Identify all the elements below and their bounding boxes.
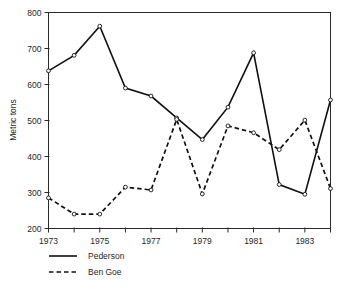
data-point: [72, 53, 76, 57]
data-point: [226, 105, 230, 109]
data-point: [175, 118, 179, 122]
data-point: [303, 118, 307, 122]
y-tick-label: 700: [27, 44, 41, 54]
data-point: [200, 192, 204, 196]
x-tick-label: 1983: [295, 236, 314, 246]
series-line: [49, 26, 331, 194]
data-point: [329, 98, 333, 102]
y-tick-label: 400: [27, 152, 41, 162]
series-ben-goe: [47, 118, 333, 216]
x-tick-label: 1979: [193, 236, 212, 246]
data-point: [200, 138, 204, 142]
data-point: [72, 212, 76, 216]
data-point: [47, 196, 51, 200]
data-point: [329, 187, 333, 191]
y-tick-label: 500: [27, 116, 41, 126]
y-axis: 200300400500600700800: [27, 8, 49, 234]
y-tick-label: 200: [27, 224, 41, 234]
data-point: [226, 124, 230, 128]
series-line: [49, 119, 331, 214]
legend-label: Pederson: [88, 251, 125, 261]
data-point: [124, 185, 128, 189]
data-point: [277, 148, 281, 152]
data-point: [47, 69, 51, 73]
line-chart: 200300400500600700800 197319751977197919…: [0, 0, 345, 287]
chart-figure: 200300400500600700800 197319751977197919…: [0, 0, 345, 287]
y-tick-label: 600: [27, 80, 41, 90]
series-pederson: [47, 24, 333, 196]
data-point: [303, 192, 307, 196]
data-point: [98, 24, 102, 28]
data-point: [252, 131, 256, 135]
data-point: [149, 188, 153, 192]
series-layer: [47, 24, 333, 216]
y-tick-label: 800: [27, 8, 41, 18]
plot-frame: [49, 13, 331, 229]
x-tick-label: 1975: [90, 236, 109, 246]
legend-label: Ben Goe: [88, 267, 122, 277]
chart-legend: PedersonBen Goe: [49, 251, 125, 277]
data-point: [124, 86, 128, 90]
data-point: [98, 212, 102, 216]
x-tick-label: 1973: [39, 236, 58, 246]
x-axis: 197319751977197919811983: [39, 228, 330, 246]
y-axis-title: Metric tons: [8, 99, 18, 141]
data-point: [252, 51, 256, 55]
y-tick-label: 300: [27, 188, 41, 198]
data-point: [149, 94, 153, 98]
x-tick-label: 1981: [244, 236, 263, 246]
x-tick-label: 1977: [142, 236, 161, 246]
data-point: [277, 183, 281, 187]
